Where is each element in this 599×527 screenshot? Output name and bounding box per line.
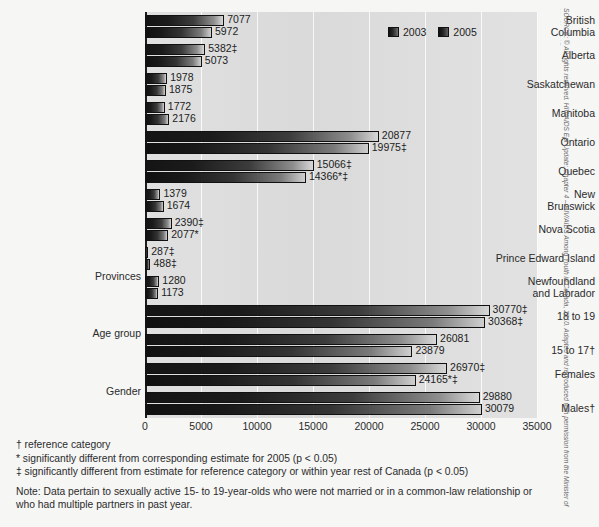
group-label-age-group: Age group (0, 327, 145, 339)
bar-2003 (145, 276, 159, 287)
bar-2003 (145, 160, 314, 171)
bar-2003 (145, 44, 205, 55)
bar-2003 (145, 305, 490, 316)
bar-value-label: 24165*‡ (419, 373, 458, 386)
gridline-35000 (537, 12, 538, 418)
x-tick-label-15000: 15000 (298, 420, 327, 432)
page-background: 707759725382‡507319781875177221762087719… (0, 0, 599, 527)
footnote-double-dagger: ‡ significantly different from estimate … (16, 465, 551, 479)
bar-2005 (145, 288, 158, 299)
bar-2003 (145, 73, 167, 84)
x-axis: 05000100001500020000250003000035000 (145, 420, 537, 436)
bar-2005 (145, 230, 168, 241)
bar-2005 (145, 346, 412, 357)
bar-value-label: 1173 (161, 286, 184, 299)
footnote-note: Note: Data pertain to sexually active 15… (16, 485, 551, 512)
x-tick-label-5000: 5000 (189, 420, 212, 432)
bar-2005 (145, 56, 202, 67)
legend-label-2005: 2005 (453, 26, 476, 38)
bar-2005 (145, 172, 306, 183)
legend-swatch-2003-icon (388, 27, 399, 37)
bar-value-label: 2176 (172, 112, 195, 125)
source-credit: SOURCE: © All rights reserved. HIV/AIDS … (560, 0, 596, 527)
bar-2005 (145, 259, 150, 270)
legend-item-2005: 2005 (438, 26, 476, 38)
bar-2005 (145, 143, 369, 154)
bar-2005 (145, 27, 212, 38)
bar-2005 (145, 201, 164, 212)
group-label-gender: Gender (0, 385, 145, 397)
bar-value-label: 5073 (205, 54, 228, 67)
bar-2005 (145, 317, 485, 328)
group-label-provinces: Provinces (0, 270, 145, 282)
bar-value-label: 2077* (171, 228, 198, 241)
x-tick-label-35000: 35000 (522, 420, 551, 432)
bar-value-label: 1674 (167, 199, 190, 212)
bar-2003 (145, 247, 148, 258)
bar-2003 (145, 15, 224, 26)
bar-2003 (145, 392, 480, 403)
bar-2003 (145, 363, 447, 374)
bar-value-label: 488‡ (153, 257, 176, 270)
legend-item-2003: 2003 (388, 26, 426, 38)
x-tick-label-0: 0 (142, 420, 148, 432)
footnote-asterisk: * significantly different from correspon… (16, 452, 551, 466)
bar-2003 (145, 334, 437, 345)
bar-2005 (145, 404, 482, 415)
source-credit-text: SOURCE: © All rights reserved. HIV/AIDS … (560, 8, 571, 518)
bar-value-label: 23879 (415, 344, 444, 357)
bar-2003 (145, 189, 160, 200)
bar-value-label: 5972 (215, 25, 238, 38)
bar-value-label: 19975‡ (372, 141, 407, 154)
x-tick-label-10000: 10000 (242, 420, 271, 432)
bar-2003 (145, 102, 165, 113)
bar-2003 (145, 131, 379, 142)
footnote-reference-category: † reference category (16, 438, 551, 452)
bar-2005 (145, 114, 169, 125)
bar-value-label: 1875 (169, 83, 192, 96)
x-tick-label-30000: 30000 (466, 420, 495, 432)
x-tick-label-20000: 20000 (354, 420, 383, 432)
legend-label-2003: 2003 (403, 26, 426, 38)
chart-legend: 2003 2005 (388, 26, 477, 38)
bar-2003 (145, 218, 172, 229)
legend-swatch-2005-icon (438, 27, 449, 37)
x-tick-label-25000: 25000 (410, 420, 439, 432)
footnotes: † reference category * significantly dif… (16, 438, 551, 512)
bar-2005 (145, 375, 416, 386)
bar-value-label: 14366*‡ (309, 170, 348, 183)
bar-2005 (145, 85, 166, 96)
